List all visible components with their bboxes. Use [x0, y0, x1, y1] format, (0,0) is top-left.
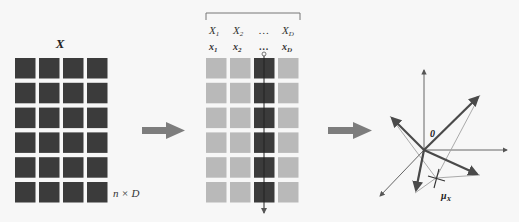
variable-label: X1	[208, 24, 219, 38]
matrix-grid	[15, 58, 108, 203]
bracket	[206, 13, 300, 20]
vector-labels: x1x2…xD	[208, 41, 292, 54]
matrix-label: X	[55, 36, 65, 51]
matrix-cell	[63, 83, 84, 104]
matrix-cell	[63, 157, 84, 178]
dims-label: n × D	[113, 187, 139, 199]
matrix-cell	[206, 182, 227, 203]
variables-panel: X1X2…XD x1x2…xD	[206, 13, 300, 213]
matrix-cell	[39, 157, 60, 178]
matrix-cell	[87, 58, 108, 79]
matrix-cell	[230, 132, 251, 153]
vector-label: xD	[281, 41, 292, 54]
column-grid	[206, 58, 299, 203]
matrix-cell	[87, 182, 108, 203]
vector-label: …	[259, 41, 269, 52]
matrix-cell	[39, 182, 60, 203]
vector-label: x2	[232, 41, 242, 54]
matrix-cell	[278, 83, 299, 104]
vector-2	[392, 118, 424, 150]
variable-label: …	[259, 24, 269, 36]
origin-label: 0	[430, 128, 435, 139]
pca-data-diagram: X n × D X1X2…XD x1x2…xD	[0, 0, 519, 222]
variable-labels: X1X2…XD	[208, 24, 294, 38]
matrix-cell	[206, 108, 227, 129]
mean-marker-icon	[428, 169, 445, 188]
matrix-cell	[230, 108, 251, 129]
matrix-cell	[15, 157, 36, 178]
matrix-cell	[87, 157, 108, 178]
matrix-cell	[39, 83, 60, 104]
data-matrix-panel: X n × D	[15, 36, 139, 203]
matrix-cell	[230, 157, 251, 178]
variable-label: XD	[281, 24, 294, 38]
matrix-cell	[39, 108, 60, 129]
matrix-cell	[278, 157, 299, 178]
matrix-cell	[63, 182, 84, 203]
matrix-cell	[278, 132, 299, 153]
vector-1	[424, 97, 478, 150]
right-arrow-icon	[328, 122, 372, 139]
matrix-cell	[278, 182, 299, 203]
right-arrow-icon	[142, 122, 185, 139]
matrix-cell	[63, 108, 84, 129]
matrix-cell	[230, 83, 251, 104]
z-axis	[380, 150, 424, 196]
matrix-cell	[15, 83, 36, 104]
matrix-cell	[206, 157, 227, 178]
matrix-cell	[15, 58, 36, 79]
matrix-cell	[206, 83, 227, 104]
mean-label: μX	[440, 190, 452, 203]
matrix-cell	[278, 58, 299, 79]
matrix-cell	[15, 182, 36, 203]
matrix-cell	[63, 132, 84, 153]
matrix-cell	[87, 132, 108, 153]
matrix-cell	[230, 58, 251, 79]
matrix-cell	[39, 132, 60, 153]
matrix-cell	[206, 132, 227, 153]
matrix-cell	[15, 132, 36, 153]
vector-3	[424, 150, 477, 174]
matrix-cell	[15, 108, 36, 129]
vector-label: x1	[208, 41, 218, 54]
variable-label: X2	[232, 24, 244, 38]
matrix-cell	[230, 182, 251, 203]
vector-space-panel: 0 μX	[380, 70, 507, 203]
matrix-cell	[87, 83, 108, 104]
matrix-cell	[63, 58, 84, 79]
column-origin-marker	[262, 52, 266, 56]
matrix-cell	[39, 58, 60, 79]
matrix-cell	[87, 108, 108, 129]
matrix-cell	[206, 58, 227, 79]
matrix-cell	[278, 108, 299, 129]
